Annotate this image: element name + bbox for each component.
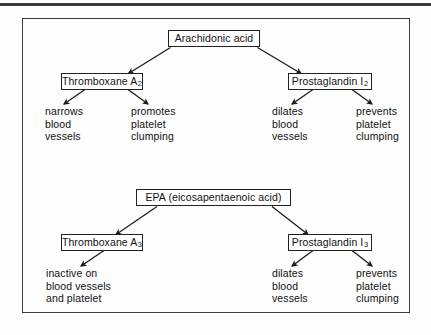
effect-promotes-platelet-clumping: promotes platelet clumping — [131, 105, 176, 143]
node-thromboxane-a3-base: Thromboxane A — [62, 237, 137, 248]
node-thromboxane-a2[interactable]: Thromboxane A2 — [61, 73, 143, 90]
node-arachidonic-acid-label: Arachidonic acid — [175, 33, 254, 44]
node-prostaglandin-i3-subscript: 3 — [363, 241, 368, 249]
node-prostaglandin-i3-base: Prostaglandin I — [292, 237, 364, 248]
node-arachidonic-acid[interactable]: Arachidonic acid — [168, 30, 260, 47]
top-horizontal-rule — [0, 3, 431, 6]
node-prostaglandin-i2-subscript: 2 — [363, 80, 368, 88]
effect-inactive-on-blood-vessels-and-platelet: inactive on blood vessels and platelet — [46, 267, 111, 305]
effect-narrows-blood-vessels: narrows blood vessels — [45, 105, 83, 143]
effect-prevents-platelet-clumping-lower: prevents platelet clumping — [356, 267, 399, 305]
node-thromboxane-a2-base: Thromboxane A — [62, 76, 137, 87]
diagram-page: Arachidonic acid Thromboxane A2 Prostagl… — [0, 0, 431, 335]
node-epa-label: EPA (eicosapentaenoic acid) — [145, 192, 281, 203]
effect-prevents-platelet-clumping-upper: prevents platelet clumping — [356, 105, 399, 143]
node-thromboxane-a3-subscript: 3 — [137, 241, 142, 249]
node-prostaglandin-i2[interactable]: Prostaglandin I2 — [288, 73, 372, 90]
node-prostaglandin-i2-base: Prostaglandin I — [292, 76, 364, 87]
node-thromboxane-a3[interactable]: Thromboxane A3 — [61, 234, 143, 251]
effect-dilates-blood-vessels-upper: dilates blood vessels — [272, 105, 308, 143]
node-prostaglandin-i3[interactable]: Prostaglandin I3 — [288, 234, 372, 251]
node-epa[interactable]: EPA (eicosapentaenoic acid) — [136, 189, 291, 206]
node-thromboxane-a2-subscript: 2 — [137, 80, 142, 88]
effect-dilates-blood-vessels-lower: dilates blood vessels — [272, 267, 308, 305]
